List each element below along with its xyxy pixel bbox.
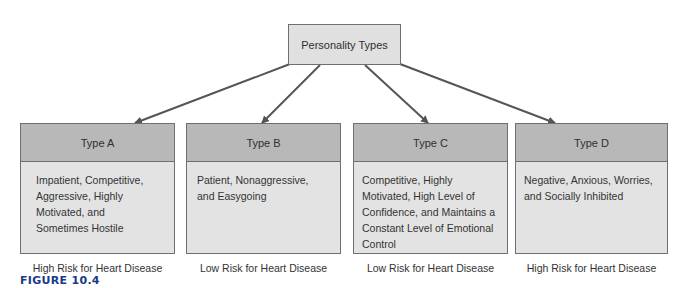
arrow-to-type-d xyxy=(400,64,555,123)
type-d-card: Type D Negative, Anxious, Worries, and S… xyxy=(515,123,668,254)
type-a-risk: High Risk for Heart Disease xyxy=(20,262,175,274)
type-a-description: Impatient, Competitive, Aggressive, High… xyxy=(21,162,174,236)
root-label: Personality Types xyxy=(301,39,388,51)
type-a-header: Type A xyxy=(21,124,174,162)
type-b-card: Type B Patient, Nonaggressive, and Easyg… xyxy=(186,123,341,254)
figure-caption: FIGURE 10.4 xyxy=(20,274,100,287)
arrow-to-type-b xyxy=(262,65,320,123)
type-c-card: Type C Competitive, Highly Motivated, Hi… xyxy=(353,123,508,254)
type-d-description: Negative, Anxious, Worries, and Socially… xyxy=(516,162,667,204)
type-d-header: Type D xyxy=(516,124,667,162)
type-b-description: Patient, Nonaggressive, and Easygoing xyxy=(187,162,340,204)
type-a-card: Type A Impatient, Competitive, Aggressiv… xyxy=(20,123,175,254)
arrow-to-type-c xyxy=(365,65,428,123)
type-c-risk: Low Risk for Heart Disease xyxy=(353,262,508,274)
type-c-description: Competitive, Highly Motivated, High Leve… xyxy=(354,162,507,252)
arrow-to-type-a xyxy=(135,64,290,123)
type-d-risk: High Risk for Heart Disease xyxy=(515,262,668,274)
root-node-personality-types: Personality Types xyxy=(288,24,401,65)
type-c-header: Type C xyxy=(354,124,507,162)
type-b-risk: Low Risk for Heart Disease xyxy=(186,262,341,274)
type-b-header: Type B xyxy=(187,124,340,162)
